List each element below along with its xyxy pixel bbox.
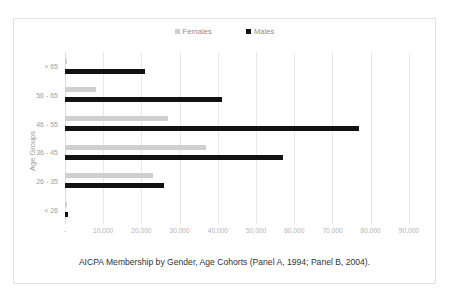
bar-females-3[interactable] bbox=[65, 145, 206, 150]
legend-label-females: Females bbox=[183, 27, 212, 36]
y-axis-tick: 46 - 55 bbox=[36, 120, 58, 127]
legend-item-males[interactable]: Males bbox=[246, 27, 275, 36]
y-axis-tick: < 26 bbox=[44, 206, 58, 213]
bar-group bbox=[65, 167, 428, 196]
x-axis-tick: - bbox=[64, 227, 66, 234]
bar-males-5[interactable] bbox=[65, 212, 68, 217]
chart-caption: AICPA Membership by Gender, Age Cohorts … bbox=[14, 257, 435, 267]
bar-group bbox=[65, 138, 428, 167]
plot-area bbox=[65, 52, 428, 224]
x-axis-tick: 20,000 bbox=[131, 227, 151, 234]
x-axis-tick: 50,000 bbox=[246, 227, 266, 234]
y-axis-tick: > 65 bbox=[44, 63, 58, 70]
chart-bars bbox=[65, 52, 428, 224]
x-axis-tick-labels: -10,00020,00030,00040,00050,00060,00070,… bbox=[65, 227, 428, 239]
x-axis-tick: 90,000 bbox=[399, 227, 419, 234]
x-axis-tick: 70,000 bbox=[322, 227, 342, 234]
chart-container: Females Males Age Groups > 6556 - 6546 -… bbox=[13, 18, 436, 284]
y-axis-tick: 36 - 45 bbox=[36, 149, 58, 156]
bar-males-3[interactable] bbox=[65, 155, 283, 160]
legend-label-males: Males bbox=[254, 27, 275, 36]
bar-females-5[interactable] bbox=[65, 202, 67, 207]
x-axis-tick: 30,000 bbox=[170, 227, 190, 234]
chart-legend: Females Males bbox=[14, 27, 435, 36]
x-axis-tick: 60,000 bbox=[284, 227, 304, 234]
y-axis-tick-labels: > 6556 - 6546 - 5536 - 4526 - 35< 26 bbox=[14, 52, 62, 224]
bar-group bbox=[65, 109, 428, 138]
x-axis-tick: 40,000 bbox=[208, 227, 228, 234]
bar-group bbox=[65, 81, 428, 110]
bar-females-0[interactable] bbox=[65, 59, 67, 64]
legend-swatch-males bbox=[246, 29, 251, 34]
bar-males-2[interactable] bbox=[65, 126, 359, 131]
bar-females-4[interactable] bbox=[65, 173, 153, 178]
bar-males-1[interactable] bbox=[65, 97, 222, 102]
bar-males-4[interactable] bbox=[65, 183, 164, 188]
bar-males-0[interactable] bbox=[65, 69, 145, 74]
bar-group bbox=[65, 195, 428, 224]
bar-females-2[interactable] bbox=[65, 116, 168, 121]
bar-group bbox=[65, 52, 428, 81]
y-axis-tick: 26 - 35 bbox=[36, 178, 58, 185]
bar-females-1[interactable] bbox=[65, 87, 96, 92]
legend-swatch-females bbox=[175, 29, 180, 34]
legend-item-females[interactable]: Females bbox=[175, 27, 212, 36]
y-axis-tick: 56 - 65 bbox=[36, 92, 58, 99]
x-axis-tick: 10,000 bbox=[93, 227, 113, 234]
x-axis-tick: 80,000 bbox=[361, 227, 381, 234]
